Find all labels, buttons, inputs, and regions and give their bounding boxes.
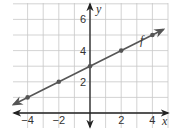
x-tick-label: −2 xyxy=(53,114,66,126)
chart: −4−224246 x y f xyxy=(0,0,173,130)
data-point xyxy=(119,48,124,53)
x-tick-label: 2 xyxy=(118,114,124,126)
x-tick-label: −4 xyxy=(21,114,34,126)
data-point xyxy=(57,80,62,85)
tick-labels: −4−224246 xyxy=(21,13,155,126)
data-point xyxy=(88,64,93,69)
x-tick-label: 4 xyxy=(149,114,155,126)
function-label-f: f xyxy=(140,33,145,47)
data-point xyxy=(25,95,30,100)
y-tick-label: 2 xyxy=(80,76,86,88)
x-axis-label: x xyxy=(161,114,168,128)
y-axis-label: y xyxy=(95,2,102,16)
y-tick-label: 4 xyxy=(80,45,86,57)
y-tick-label: 6 xyxy=(80,13,86,25)
data-point xyxy=(150,33,155,38)
